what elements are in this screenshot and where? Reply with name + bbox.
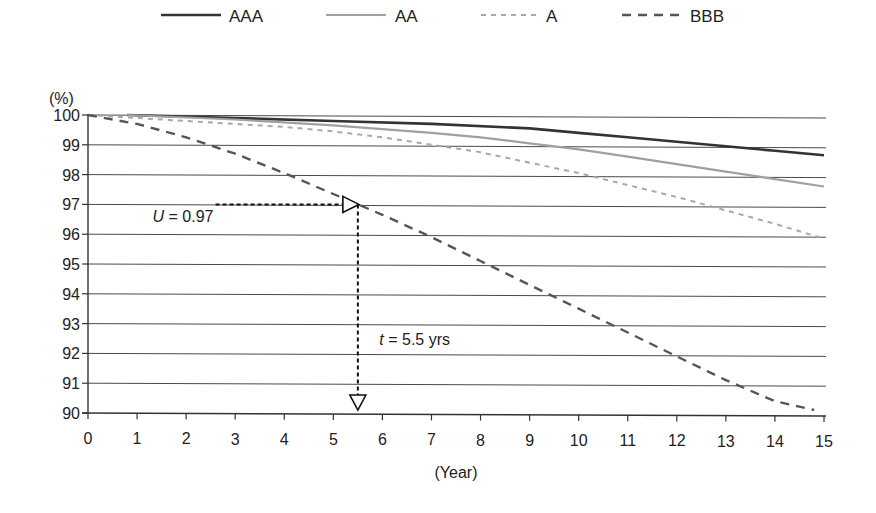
legend-item-aa: AA (326, 7, 418, 26)
x-tick-label: 14 (766, 433, 784, 450)
y-tick-label: 92 (62, 345, 80, 362)
gridline (88, 264, 826, 267)
y-tick-label: 91 (62, 375, 80, 392)
u-arrowhead-icon (343, 196, 359, 212)
legend-item-a: A (481, 7, 558, 26)
y-tick-label: 93 (62, 316, 80, 333)
gridline (88, 234, 826, 237)
x-tick-label: 5 (329, 431, 338, 448)
legend-label: BBB (690, 7, 724, 26)
t-label-value: = 5.5 yrs (384, 331, 450, 348)
gridlines (88, 115, 826, 386)
legend-label: AAA (229, 7, 264, 26)
x-tick-label: 6 (378, 431, 387, 448)
y-tick-label: 94 (62, 286, 80, 303)
legend: AAAAAABBB (161, 7, 724, 26)
x-tick-labels: 0123456789101112131415 (84, 430, 833, 450)
y-tick-label: 90 (62, 405, 80, 422)
series-line-aaa (127, 115, 824, 155)
x-tick-label: 9 (525, 432, 534, 449)
x-tick-label: 0 (84, 430, 93, 447)
x-tick-label: 3 (231, 431, 240, 448)
gridline (88, 353, 826, 356)
y-tick-labels: 90919293949596979899100 (53, 107, 80, 422)
y-tick-label: 96 (62, 226, 80, 243)
gridline (88, 324, 826, 327)
y-tick-label: 100 (53, 107, 80, 124)
legend-item-bbb: BBB (622, 7, 724, 26)
legend-label: AA (395, 7, 418, 26)
u-label-variable: U (153, 208, 165, 225)
y-tick-label: 95 (62, 256, 80, 273)
gridline (88, 175, 826, 178)
y-tick-label: 98 (62, 167, 80, 184)
gridline (88, 383, 826, 386)
gridline (88, 204, 826, 207)
x-tick-label: 13 (717, 433, 735, 450)
t-arrowhead-icon (350, 395, 366, 410)
x-axis-line (82, 413, 826, 416)
x-tick-label: 15 (815, 433, 833, 450)
legend-item-aaa: AAA (161, 7, 264, 26)
t-label: t = 5.5 yrs (379, 331, 450, 348)
x-tick-label: 7 (427, 431, 436, 448)
y-axis-title: (%) (49, 90, 74, 107)
gridline (88, 294, 826, 297)
x-tick-label: 8 (476, 432, 485, 449)
annotations: U = 0.97t = 5.5 yrs (153, 196, 450, 410)
y-tick-label: 99 (62, 137, 80, 154)
x-tick-label: 2 (182, 430, 191, 447)
x-tick-label: 4 (280, 431, 289, 448)
x-axis-title: (Year) (435, 464, 478, 481)
legend-label: A (546, 7, 558, 26)
x-tick-label: 11 (619, 432, 636, 449)
u-label-value: = 0.97 (164, 208, 213, 225)
x-tick-label: 10 (570, 432, 588, 449)
u-label: U = 0.97 (153, 208, 214, 225)
x-tick-label: 1 (133, 430, 142, 447)
survival-probability-chart: AAAAAABBB (%) (Year) 9091929394959697989… (0, 0, 876, 513)
y-tick-label: 97 (62, 196, 80, 213)
series-lines (88, 115, 824, 410)
x-tick-label: 12 (668, 432, 686, 449)
series-line-bbb (88, 115, 814, 410)
